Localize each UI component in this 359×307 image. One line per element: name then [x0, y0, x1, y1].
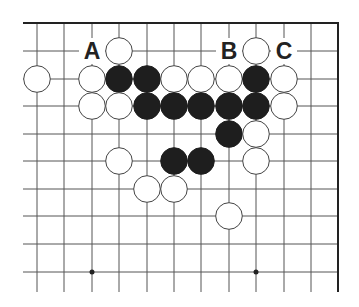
black-stone: [188, 148, 215, 175]
black-stone: [106, 66, 133, 93]
star-point: [90, 270, 95, 275]
white-stone: [79, 66, 106, 93]
white-stone: [243, 148, 270, 175]
star-point: [254, 270, 259, 275]
point-label-a: A: [84, 38, 101, 64]
black-stone: [161, 148, 188, 175]
point-label-c: C: [276, 38, 293, 64]
go-board: ABC: [0, 0, 359, 307]
white-stone: [106, 148, 133, 175]
black-stone: [161, 93, 188, 120]
black-stone: [243, 66, 270, 93]
white-stone: [161, 66, 188, 93]
white-stone: [271, 93, 298, 120]
white-stone: [216, 203, 243, 230]
white-stone: [79, 93, 106, 120]
white-stone: [271, 66, 298, 93]
white-stone: [106, 93, 133, 120]
white-stone: [161, 176, 188, 203]
black-stone: [134, 66, 161, 93]
black-stone: [216, 93, 243, 120]
black-stone: [243, 93, 270, 120]
white-stone: [24, 66, 51, 93]
black-stone: [216, 121, 243, 148]
white-stone: [243, 38, 270, 65]
white-stone: [134, 176, 161, 203]
white-stone: [188, 66, 215, 93]
point-label-b: B: [221, 38, 238, 64]
black-stone: [134, 93, 161, 120]
white-stone: [106, 38, 133, 65]
black-stone: [188, 93, 215, 120]
white-stone: [243, 121, 270, 148]
white-stone: [216, 66, 243, 93]
